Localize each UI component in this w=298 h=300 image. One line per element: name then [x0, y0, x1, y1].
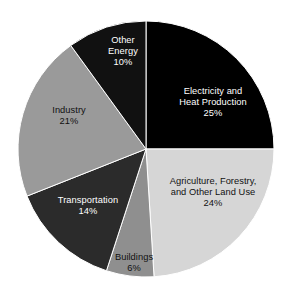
pie-slice [146, 21, 274, 149]
pie-slice [146, 149, 274, 277]
pie-chart-svg [0, 0, 298, 300]
pie-slice-group [18, 21, 274, 277]
pie-chart-figure: Electricity and Heat Production 25% Agri… [0, 0, 298, 300]
